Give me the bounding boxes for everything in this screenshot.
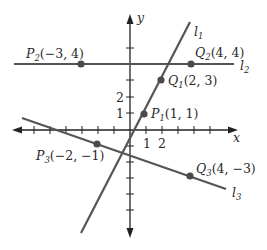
point-Q1-label: Q1(2, 3) <box>168 73 217 90</box>
y-axis-label: y <box>136 10 145 25</box>
point-P2-marker-icon <box>77 60 84 67</box>
x-tick-label-2: 2 <box>158 136 166 151</box>
point-P1-marker-icon <box>140 110 147 117</box>
point-P1: P1(1, 1) <box>140 106 198 123</box>
point-Q2-marker-icon <box>187 60 194 67</box>
point-P1-label: P1(1, 1) <box>150 106 198 123</box>
point-Q1: Q1(2, 3) <box>157 73 217 90</box>
y-axis-up-arrow-icon <box>127 14 134 24</box>
y-tick-label-2: 2 <box>116 90 124 105</box>
point-P2-label: P2(−3, 4) <box>25 46 84 63</box>
line-l1: l1 <box>81 22 203 233</box>
point-Q1-marker-icon <box>157 76 164 83</box>
line-l3-label: l3 <box>232 185 241 202</box>
y-tick-label-1: 1 <box>116 106 124 121</box>
point-P3: P3(−2, −1) <box>35 140 104 165</box>
point-P3-label: P3(−2, −1) <box>35 148 104 165</box>
point-Q3: Q3(4, −3) <box>186 161 255 180</box>
x-tick-label-1: 1 <box>143 136 151 151</box>
line-l1-label: l1 <box>194 24 203 41</box>
y-axis-down-arrow-icon <box>127 228 134 238</box>
line-l2-label: l2 <box>240 58 249 75</box>
point-Q3-marker-icon <box>186 172 193 179</box>
point-P3-marker-icon <box>93 140 100 147</box>
x-axis-left-arrow-icon <box>12 127 22 134</box>
x-axis-label: x <box>233 130 240 145</box>
point-Q2-label: Q2(4, 4) <box>195 45 244 62</box>
y-axis: 1 2 y <box>116 10 145 238</box>
coordinate-plane-diagram: 1 2 x 1 2 y l2 l3 <box>0 0 267 250</box>
point-Q3-label: Q3(4, −3) <box>196 161 256 178</box>
